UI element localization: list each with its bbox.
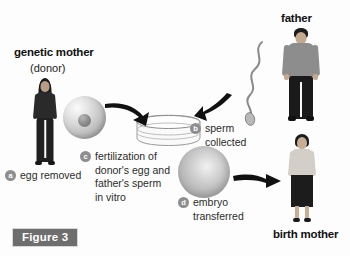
label-father: father bbox=[281, 12, 312, 24]
person-birth-mother bbox=[285, 134, 319, 223]
sperm-tail bbox=[247, 42, 262, 114]
birth-mother-left-shoe bbox=[293, 218, 300, 222]
step-d-line-2: transferred bbox=[193, 210, 244, 224]
step-c-line-3: father's sperm bbox=[95, 177, 170, 191]
step-b-sperm-collected: bsperm collected bbox=[190, 122, 246, 149]
father-torso bbox=[288, 43, 314, 77]
birth-mother-right-arm bbox=[309, 151, 316, 176]
birth-mother-head bbox=[297, 137, 307, 149]
step-c-line-4: in vitro bbox=[95, 191, 170, 205]
father-leg-gap bbox=[300, 82, 302, 117]
step-c-line-2: donor's egg and bbox=[95, 164, 170, 178]
label-genetic-mother-sub: (donor) bbox=[30, 62, 65, 74]
step-c-marker: c bbox=[80, 151, 91, 162]
father-left-shoe bbox=[288, 116, 296, 121]
father-right-arm bbox=[312, 45, 320, 76]
person-genetic-mother bbox=[28, 78, 62, 166]
father-right-shoe bbox=[306, 116, 314, 121]
step-a-egg-removed: aegg removed bbox=[5, 169, 81, 182]
step-c-line-1: fertilization of bbox=[95, 150, 157, 162]
father-right-hand bbox=[313, 74, 318, 80]
egg-nucleus bbox=[78, 114, 91, 127]
genetic-mother-leg-gap bbox=[44, 120, 46, 158]
person-father bbox=[281, 28, 321, 122]
step-d-marker: d bbox=[178, 197, 189, 208]
genetic-mother-right-arm bbox=[51, 94, 57, 119]
figure-caption: Figure 3 bbox=[12, 228, 78, 247]
birth-mother-skirt bbox=[291, 175, 313, 207]
genetic-mother-right-shoe bbox=[48, 161, 55, 165]
arrow-embryo-to-birth-mother bbox=[233, 174, 281, 188]
step-c-fertilization: cfertilization of donor's egg and father… bbox=[80, 150, 170, 204]
figure-container: genetic mother (donor) father birth moth… bbox=[0, 0, 350, 256]
label-birth-mother: birth mother bbox=[273, 228, 338, 240]
step-d-line-1: embryo bbox=[193, 196, 228, 208]
birth-mother-right-shoe bbox=[304, 218, 311, 222]
embryo-cell bbox=[178, 146, 230, 198]
arrow-egg-to-dish bbox=[105, 103, 149, 126]
label-genetic-mother: genetic mother bbox=[14, 46, 94, 58]
arrow-sperm-to-dish bbox=[194, 93, 232, 121]
egg-cell bbox=[63, 96, 106, 139]
genetic-mother-head bbox=[41, 81, 50, 92]
step-b-marker: b bbox=[190, 123, 201, 134]
step-a-line-1: egg removed bbox=[20, 169, 81, 181]
genetic-mother-left-shoe bbox=[35, 161, 42, 165]
step-d-embryo-transferred: dembryo transferred bbox=[178, 196, 244, 223]
step-b-line-2: collected bbox=[205, 136, 246, 150]
step-b-line-1: sperm bbox=[205, 122, 234, 134]
step-a-marker: a bbox=[5, 170, 16, 181]
